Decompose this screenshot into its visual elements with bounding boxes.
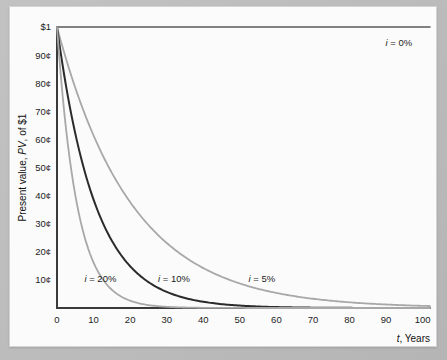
y-tick-label: 60¢: [35, 134, 51, 145]
y-tick-label: 40¢: [35, 190, 51, 201]
x-tick-label: 100: [415, 314, 431, 325]
curve-annotation: i = 0%: [386, 37, 413, 48]
y-tick-label: 30¢: [35, 218, 51, 229]
chart-axes: [57, 27, 430, 308]
x-tick-label: 50: [235, 314, 246, 325]
figure-outer-frame: 10¢20¢30¢40¢50¢60¢70¢80¢90¢$1 0102030405…: [0, 0, 447, 360]
present-value-decay-chart: 10¢20¢30¢40¢50¢60¢70¢80¢90¢$1 0102030405…: [10, 7, 438, 348]
x-tick-label: 40: [198, 314, 209, 325]
x-axis-title: t, Years: [397, 333, 430, 344]
curve-annotation: i = 10%: [158, 273, 191, 284]
y-axis-tick-labels: 10¢20¢30¢40¢50¢60¢70¢80¢90¢$1: [35, 21, 51, 285]
curve-annotations: i = 0%i = 5%i = 10%i = 20%: [84, 37, 412, 284]
x-tick-label: 60: [271, 314, 282, 325]
x-tick-label: 80: [344, 314, 355, 325]
curve-i-5-: [57, 27, 430, 306]
y-axis-title: Present value, PV, of $1: [17, 113, 28, 221]
x-tick-label: 20: [125, 314, 136, 325]
y-tick-label: $1: [40, 21, 51, 32]
x-tick-label: 30: [161, 314, 172, 325]
y-tick-label: 10¢: [35, 274, 51, 285]
x-tick-label: 90: [381, 314, 392, 325]
x-axis-tick-labels: 0102030405060708090100: [54, 314, 430, 325]
x-tick-label: 70: [308, 314, 319, 325]
x-tick-label: 0: [54, 314, 59, 325]
axis-lines: [57, 27, 430, 308]
y-tick-label: 50¢: [35, 162, 51, 173]
chart-curves: [57, 27, 430, 308]
y-tick-label: 80¢: [35, 78, 51, 89]
y-tick-label: 90¢: [35, 50, 51, 61]
x-tick-label: 10: [88, 314, 99, 325]
curve-i-10-: [57, 27, 430, 308]
y-tick-label: 20¢: [35, 246, 51, 257]
curve-annotation: i = 20%: [84, 273, 117, 284]
curve-i-20-: [57, 27, 430, 308]
figure-card: 10¢20¢30¢40¢50¢60¢70¢80¢90¢$1 0102030405…: [9, 6, 437, 347]
y-tick-label: 70¢: [35, 106, 51, 117]
curve-annotation: i = 5%: [248, 273, 275, 284]
